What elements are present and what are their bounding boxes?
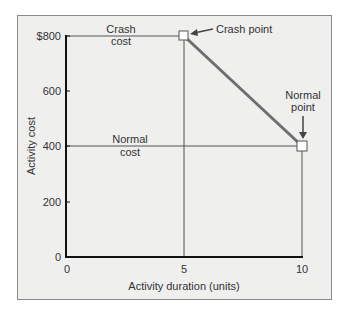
crash-cost-label: Crash (106, 23, 135, 35)
arrowhead-icon (190, 29, 198, 36)
y-tick-label: 0 (55, 251, 61, 263)
normal-cost-label: cost (120, 146, 140, 158)
crash-point-marker (179, 31, 188, 40)
crash-cost-label: cost (111, 35, 131, 47)
normal-cost-label: Normal (112, 133, 147, 145)
normal-point-marker (297, 141, 307, 151)
x-tick-label: 0 (64, 263, 70, 275)
y-tick-label: 600 (43, 85, 61, 97)
chart: $800 600 400 200 0 0 5 10 Activity durat… (0, 0, 347, 316)
normal-point-label: point (291, 101, 315, 113)
normal-point-label: Normal (285, 89, 320, 101)
arrowhead-icon (299, 132, 307, 139)
crash-point-label: Crash point (216, 23, 272, 35)
y-tick-label: 400 (43, 140, 61, 152)
x-axis-label: Activity duration (units) (128, 280, 239, 292)
x-tick-label: 5 (181, 263, 187, 275)
x-tick-label: 10 (296, 263, 308, 275)
y-tick-label: $800 (37, 30, 61, 42)
y-tick-label: 200 (43, 196, 61, 208)
y-axis-label: Activity cost (25, 117, 37, 175)
